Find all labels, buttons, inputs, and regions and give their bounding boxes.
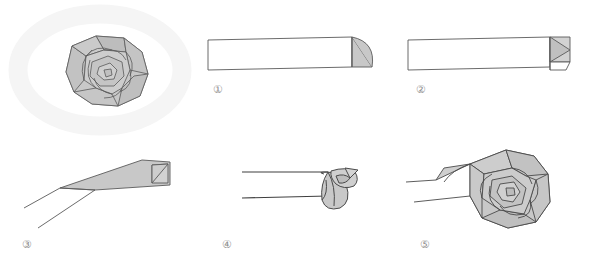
panel-step-1 [200,20,390,90]
folding-instruction-diagram: ① ② ③ [0,0,599,275]
step-label-5: ⑤ [420,239,430,250]
step-label-1: ① [213,84,223,95]
strip-step-2 [408,37,570,70]
rose-step-5 [406,150,550,228]
rose-petals [66,36,148,106]
panel-step-2 [400,20,590,90]
step-label-4: ④ [222,239,232,250]
step-label-2: ② [416,84,426,95]
strip-step-4 [242,168,358,209]
strip-step-1 [208,37,373,70]
panel-step-4 [200,140,400,245]
panel-finished-rose [0,0,200,140]
step-label-3: ③ [22,239,32,250]
strip-step-3 [24,160,170,228]
panel-step-3 [0,140,200,245]
panel-step-5 [400,140,599,245]
